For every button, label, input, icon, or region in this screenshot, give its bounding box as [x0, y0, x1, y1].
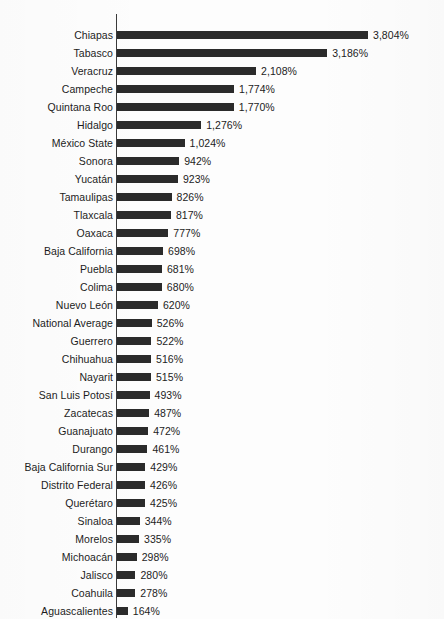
bar-row: Oaxaca777%	[0, 224, 444, 242]
category-label: Distrito Federal	[41, 476, 113, 494]
bar-row: Quintana Roo1,770%	[0, 98, 444, 116]
category-label: Chihuahua	[62, 350, 113, 368]
bar	[117, 427, 148, 435]
category-label: Sonora	[79, 152, 113, 170]
category-label: Puebla	[80, 260, 113, 278]
category-label: Nayarit	[79, 368, 113, 386]
bar-row: Distrito Federal426%	[0, 476, 444, 494]
bar-row: Nayarit515%	[0, 368, 444, 386]
bar-row: Veracruz2,108%	[0, 62, 444, 80]
bar-value-label: 515%	[156, 368, 183, 386]
bar-row: Chiapas3,804%	[0, 26, 444, 44]
category-label: Tlaxcala	[74, 206, 114, 224]
bar-value-label: 461%	[152, 440, 179, 458]
bar-value-label: 826%	[177, 188, 204, 206]
bar-row: Zacatecas487%	[0, 404, 444, 422]
bar	[117, 49, 327, 57]
bar	[117, 67, 256, 75]
bar	[117, 121, 201, 129]
bar	[117, 535, 139, 543]
bar	[117, 103, 234, 111]
bar-row: Guerrero522%	[0, 332, 444, 350]
bar-value-label: 522%	[156, 332, 183, 350]
bar	[117, 355, 151, 363]
bar	[117, 301, 158, 309]
bar	[117, 31, 368, 39]
bar	[117, 463, 145, 471]
bar-value-label: 3,186%	[332, 44, 368, 62]
bar-value-label: 777%	[173, 224, 200, 242]
bar-row: Chihuahua516%	[0, 350, 444, 368]
bar-value-label: 278%	[140, 584, 167, 602]
bar-value-label: 335%	[144, 530, 171, 548]
category-label: Guanajuato	[58, 422, 113, 440]
bar-value-label: 1,024%	[190, 134, 226, 152]
bar-value-label: 620%	[163, 296, 190, 314]
bar-value-label: 429%	[150, 458, 177, 476]
bar-row: Tamaulipas826%	[0, 188, 444, 206]
bar-value-label: 698%	[168, 242, 195, 260]
bar-value-label: 164%	[133, 602, 160, 619]
category-label: Campeche	[62, 80, 113, 98]
bar-row: Campeche1,774%	[0, 80, 444, 98]
category-label: Aguascalientes	[41, 602, 113, 619]
category-label: Querétaro	[65, 494, 113, 512]
category-label: Veracruz	[71, 62, 113, 80]
category-label: Oaxaca	[77, 224, 114, 242]
bar-value-label: 3,804%	[373, 26, 409, 44]
bar-row: México State1,024%	[0, 134, 444, 152]
category-label: Baja California Sur	[25, 458, 114, 476]
bar-value-label: 2,108%	[261, 62, 297, 80]
category-label: Tamaulipas	[59, 188, 113, 206]
plot-area: Chiapas3,804%Tabasco3,186%Veracruz2,108%…	[0, 14, 444, 606]
bar	[117, 283, 162, 291]
category-label: México State	[52, 134, 113, 152]
bar	[117, 193, 172, 201]
category-label: Zacatecas	[64, 404, 113, 422]
bar	[117, 391, 150, 399]
category-label: Michoacán	[62, 548, 113, 566]
bar	[117, 139, 185, 147]
bar	[117, 445, 147, 453]
bar-value-label: 493%	[155, 386, 182, 404]
category-label: Quintana Roo	[48, 98, 113, 116]
bar-chart-figure: Chiapas3,804%Tabasco3,186%Veracruz2,108%…	[0, 0, 444, 619]
bar-row: Guanajuato472%	[0, 422, 444, 440]
bar-value-label: 516%	[156, 350, 183, 368]
category-label: Nuevo León	[56, 296, 113, 314]
category-label: Jalisco	[81, 566, 113, 584]
bar-row: Yucatán923%	[0, 170, 444, 188]
bar-value-label: 680%	[167, 278, 194, 296]
bar	[117, 85, 234, 93]
bar-row: Morelos335%	[0, 530, 444, 548]
bar	[117, 337, 151, 345]
bar-row: Aguascalientes164%	[0, 602, 444, 619]
bar-row: San Luis Potosí493%	[0, 386, 444, 404]
category-label: Sinaloa	[78, 512, 113, 530]
bar-value-label: 344%	[145, 512, 172, 530]
bar-value-label: 923%	[183, 170, 210, 188]
bar	[117, 571, 135, 579]
bar	[117, 481, 145, 489]
bar-row: Baja California Sur429%	[0, 458, 444, 476]
bar-value-label: 526%	[157, 314, 184, 332]
bar	[117, 175, 178, 183]
bar	[117, 517, 140, 525]
bar	[117, 229, 168, 237]
category-label: Hidalgo	[77, 116, 113, 134]
category-label: Colima	[80, 278, 113, 296]
bar	[117, 553, 137, 561]
bar-row: Durango461%	[0, 440, 444, 458]
bar-value-label: 1,774%	[239, 80, 275, 98]
category-label: National Average	[32, 314, 113, 332]
bar-row: Hidalgo1,276%	[0, 116, 444, 134]
bar-value-label: 1,276%	[206, 116, 242, 134]
bar	[117, 265, 162, 273]
category-label: Durango	[72, 440, 113, 458]
bar-row: National Average526%	[0, 314, 444, 332]
bar	[117, 589, 135, 597]
bar-value-label: 1,770%	[239, 98, 275, 116]
bar	[117, 157, 179, 165]
bar-row: Sinaloa344%	[0, 512, 444, 530]
bar-row: Querétaro425%	[0, 494, 444, 512]
